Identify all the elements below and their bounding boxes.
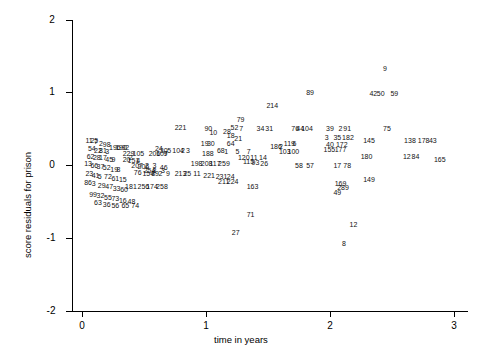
data-point-label: 2 xyxy=(159,170,163,177)
data-point-label: 100 xyxy=(288,148,300,155)
data-point-label: 71 xyxy=(247,211,255,218)
data-point-label: 58 xyxy=(295,162,303,169)
data-point-label: 8 xyxy=(342,240,346,247)
data-point-label: 165 xyxy=(434,156,446,163)
data-point-label: 25 xyxy=(183,170,191,177)
data-point-label: 221 xyxy=(175,124,187,131)
data-point-label: 178 xyxy=(418,137,430,144)
data-point-label: 8 xyxy=(116,166,120,173)
data-point-label: 65 xyxy=(121,202,129,209)
data-point-label: 163 xyxy=(247,183,259,190)
data-point-label: 9 xyxy=(164,150,168,157)
data-point-label: 7 xyxy=(94,138,98,145)
data-point-label: 79 xyxy=(237,116,245,123)
data-point-label: 3 xyxy=(325,134,329,141)
data-point-label: 2 xyxy=(181,147,185,154)
data-point-label: 5 xyxy=(98,173,102,180)
data-point-label: 10 xyxy=(209,129,217,136)
data-point-label: 12 xyxy=(350,221,358,228)
data-point-label: 259 xyxy=(218,160,230,167)
data-point-label: 31 xyxy=(265,125,273,132)
data-point-label: 34 xyxy=(257,125,265,132)
data-point-label: 9 xyxy=(111,156,115,163)
data-point-label: 43 xyxy=(429,137,437,144)
data-point-label: 26 xyxy=(260,160,268,167)
data-point-label: 105 xyxy=(133,150,145,157)
data-point-label: 52 xyxy=(231,124,239,131)
data-point-label: 1 xyxy=(224,148,228,155)
data-point-label: 30 xyxy=(207,140,215,147)
data-point-label: 76 xyxy=(134,169,142,176)
data-point-label: 224 xyxy=(227,178,239,185)
data-point-label: 177 xyxy=(335,146,347,153)
data-point-label: 145 xyxy=(363,137,375,144)
data-point-label: 56 xyxy=(111,202,119,209)
data-point-label: 6 xyxy=(293,140,297,147)
data-point-label: 12 xyxy=(403,153,411,160)
data-point-label: 17 xyxy=(333,162,341,169)
data-point-label: 3 xyxy=(92,180,96,187)
data-point-label: 7 xyxy=(239,125,243,132)
data-point-label: 138 xyxy=(404,137,416,144)
data-point-label: 89 xyxy=(306,89,314,96)
data-point-label: 258 xyxy=(156,183,168,190)
data-point-label: 21 xyxy=(234,135,242,142)
data-point-label: 57 xyxy=(306,162,314,169)
data-point-label: 39 xyxy=(326,125,334,132)
data-point-label: 78 xyxy=(343,162,351,169)
data-point-label: 93 xyxy=(252,159,260,166)
data-point-label: 49 xyxy=(333,189,341,196)
scatter-plot: 2 1 0 -1 -2 0 1 2 3 time in years score … xyxy=(0,0,497,357)
data-point-layer: 9894250592147952734317644104392917522190… xyxy=(0,0,497,357)
data-point-label: 214 xyxy=(266,102,278,109)
data-point-label: 188 xyxy=(202,150,214,157)
data-point-label: 221 xyxy=(203,172,215,179)
data-point-label: 155 xyxy=(324,146,336,153)
data-point-label: 2 xyxy=(338,125,342,132)
data-point-label: 60 xyxy=(120,186,128,193)
data-point-label: 36 xyxy=(103,201,111,208)
data-point-label: 9 xyxy=(383,65,387,72)
data-point-label: 9 xyxy=(166,170,170,177)
data-point-label: 75 xyxy=(383,125,391,132)
data-point-label: 91 xyxy=(343,125,351,132)
data-point-label: 84 xyxy=(412,153,420,160)
data-point-label: 27 xyxy=(232,229,240,236)
data-point-label: 180 xyxy=(361,153,373,160)
data-point-label: 11 xyxy=(193,170,200,177)
data-point-label: 59 xyxy=(390,90,398,97)
data-point-label: 104 xyxy=(301,125,313,132)
data-point-label: 50 xyxy=(377,90,385,97)
data-point-label: 74 xyxy=(131,202,139,209)
data-point-label: 3 xyxy=(186,147,190,154)
data-point-label: 63 xyxy=(94,199,102,206)
data-point-label: 15 xyxy=(119,176,127,183)
data-point-label: 64 xyxy=(227,140,235,147)
data-point-label: 149 xyxy=(363,176,375,183)
